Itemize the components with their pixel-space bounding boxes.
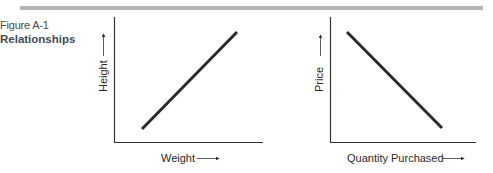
chart-height-vs-weight: Height Weight: [97, 17, 263, 164]
charts-canvas: Height Weight Price Quantity Purchased: [0, 0, 493, 173]
negative-line: [347, 32, 442, 128]
y-axis-label: Price: [313, 67, 325, 92]
x-axis-label: Weight: [161, 152, 195, 164]
y-axis-label: Height: [97, 60, 109, 92]
chart-price-vs-quantity: Price Quantity Purchased: [313, 17, 476, 164]
positive-line: [142, 32, 237, 129]
x-axis-label: Quantity Purchased: [347, 152, 444, 164]
